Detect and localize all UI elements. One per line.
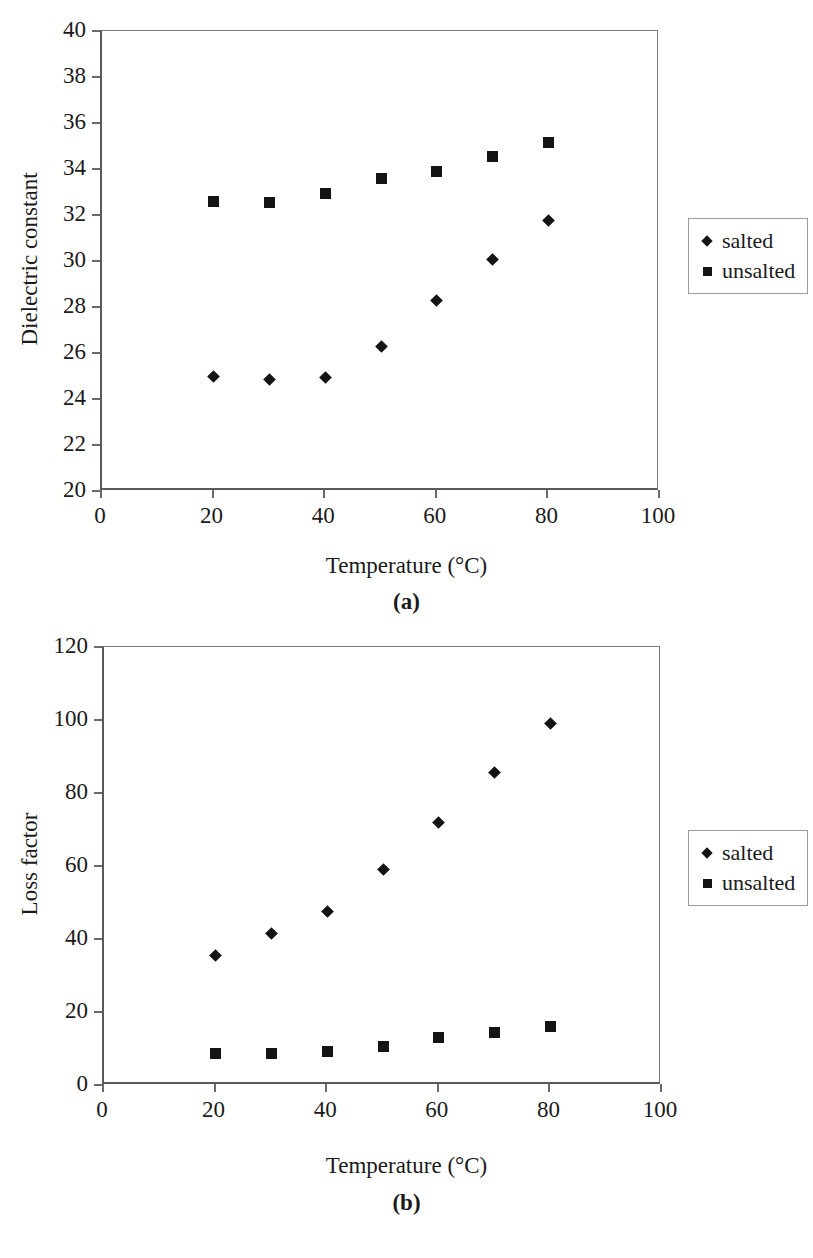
y-tick-label: 34 bbox=[63, 156, 86, 179]
y-tick-label: 22 bbox=[63, 432, 86, 455]
x-tick-label: 60 bbox=[425, 1098, 448, 1121]
x-tick-label: 20 bbox=[200, 504, 223, 527]
y-tick bbox=[92, 490, 100, 492]
data-point-unsalted bbox=[264, 197, 275, 208]
y-tick-label: 30 bbox=[63, 248, 86, 271]
data-point-unsalted bbox=[210, 1048, 221, 1059]
data-points-layer-b bbox=[104, 647, 659, 1082]
y-tick bbox=[92, 122, 100, 124]
y-tick bbox=[92, 444, 100, 446]
data-point-salted bbox=[321, 905, 334, 918]
x-tick-label: 80 bbox=[537, 1098, 560, 1121]
x-tick-label: 100 bbox=[641, 504, 676, 527]
legend-item-unsalted[interactable]: unsalted bbox=[698, 868, 795, 898]
legend-item-salted[interactable]: salted bbox=[698, 226, 795, 256]
data-point-unsalted bbox=[322, 1046, 333, 1057]
y-tick bbox=[94, 719, 102, 721]
x-tick bbox=[214, 1084, 216, 1092]
legend-item-unsalted[interactable]: unsalted bbox=[698, 256, 795, 286]
y-tick bbox=[92, 76, 100, 78]
x-tick-label: 40 bbox=[314, 1098, 337, 1121]
x-tick-label: 100 bbox=[643, 1098, 678, 1121]
data-point-unsalted bbox=[378, 1041, 389, 1052]
y-tick bbox=[92, 214, 100, 216]
x-tick-label: 80 bbox=[535, 504, 558, 527]
data-point-salted bbox=[263, 373, 276, 386]
diamond-marker-icon bbox=[698, 232, 716, 250]
y-tick bbox=[92, 352, 100, 354]
y-tick bbox=[92, 306, 100, 308]
x-tick-label: 40 bbox=[312, 504, 335, 527]
data-point-salted bbox=[209, 949, 222, 962]
data-point-unsalted bbox=[543, 137, 554, 148]
y-tick-label: 36 bbox=[63, 110, 86, 133]
y-tick bbox=[94, 1084, 102, 1086]
data-point-unsalted bbox=[489, 1027, 500, 1038]
legend-a: salted unsalted bbox=[688, 218, 808, 294]
x-tick bbox=[212, 490, 214, 498]
y-tick-label: 24 bbox=[63, 386, 86, 409]
x-tick bbox=[325, 1084, 327, 1092]
x-tick bbox=[437, 1084, 439, 1092]
data-point-salted bbox=[375, 340, 388, 353]
data-point-salted bbox=[432, 816, 445, 829]
x-tick-label: 60 bbox=[423, 504, 446, 527]
data-point-unsalted bbox=[266, 1048, 277, 1059]
x-axis-title-b: Temperature (°C) bbox=[0, 1153, 813, 1179]
x-tick bbox=[658, 490, 660, 498]
plot-frame-a bbox=[100, 30, 658, 490]
y-tick-label: 26 bbox=[63, 340, 86, 363]
y-tick-label: 28 bbox=[63, 294, 86, 317]
y-tick bbox=[92, 260, 100, 262]
x-tick bbox=[323, 490, 325, 498]
x-tick bbox=[100, 490, 102, 498]
data-point-unsalted bbox=[487, 151, 498, 162]
data-point-salted bbox=[542, 214, 555, 227]
data-point-salted bbox=[265, 927, 278, 940]
x-tick-label: 0 bbox=[94, 504, 106, 527]
panel-caption-a: (a) bbox=[0, 589, 813, 615]
y-tick-label: 40 bbox=[65, 926, 88, 949]
data-point-unsalted bbox=[433, 1032, 444, 1043]
x-tick bbox=[548, 1084, 550, 1092]
y-tick bbox=[94, 865, 102, 867]
x-tick bbox=[435, 490, 437, 498]
x-tick-label: 0 bbox=[96, 1098, 108, 1121]
data-point-unsalted bbox=[545, 1021, 556, 1032]
data-point-unsalted bbox=[208, 196, 219, 207]
panel-caption-b: (b) bbox=[0, 1190, 813, 1216]
legend-item-salted[interactable]: salted bbox=[698, 838, 795, 868]
legend-b: salted unsalted bbox=[688, 830, 808, 906]
y-tick-label: 38 bbox=[63, 64, 86, 87]
y-tick-label: 60 bbox=[65, 853, 88, 876]
y-tick-label: 40 bbox=[63, 18, 86, 41]
y-tick-label: 0 bbox=[77, 1072, 89, 1095]
plot-frame-b bbox=[102, 646, 660, 1084]
figure-panel-b: 020406080100120 020406080100 Loss factor… bbox=[0, 618, 813, 1258]
data-point-unsalted bbox=[376, 173, 387, 184]
data-point-salted bbox=[207, 370, 220, 383]
data-points-layer-a bbox=[102, 31, 657, 488]
x-tick bbox=[546, 490, 548, 498]
y-axis-title-b: Loss factor bbox=[17, 645, 43, 1083]
diamond-marker-icon bbox=[698, 844, 716, 862]
legend-label-unsalted: unsalted bbox=[722, 872, 795, 894]
data-point-salted bbox=[544, 717, 557, 730]
y-tick bbox=[92, 398, 100, 400]
data-point-salted bbox=[488, 767, 501, 780]
y-tick-label: 32 bbox=[63, 202, 86, 225]
y-tick-label: 20 bbox=[63, 478, 86, 501]
y-tick-label: 120 bbox=[54, 634, 89, 657]
legend-label-salted: salted bbox=[722, 842, 773, 864]
x-tick-label: 20 bbox=[202, 1098, 225, 1121]
data-point-salted bbox=[486, 253, 499, 266]
data-point-salted bbox=[430, 294, 443, 307]
data-point-salted bbox=[377, 863, 390, 876]
square-marker-icon bbox=[698, 262, 716, 280]
x-tick bbox=[660, 1084, 662, 1092]
square-marker-icon bbox=[698, 874, 716, 892]
y-tick bbox=[92, 30, 100, 32]
y-tick-label: 100 bbox=[54, 707, 89, 730]
x-axis-title-a: Temperature (°C) bbox=[0, 553, 813, 579]
legend-label-salted: salted bbox=[722, 230, 773, 252]
